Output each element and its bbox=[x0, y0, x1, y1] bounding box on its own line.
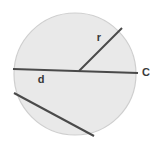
diagram-canvas: r d C bbox=[0, 0, 161, 147]
diameter-label: d bbox=[38, 73, 45, 85]
radius-label: r bbox=[97, 31, 102, 43]
circle-geometry-diagram: r d C bbox=[0, 0, 161, 147]
circumference-label: C bbox=[142, 66, 150, 78]
